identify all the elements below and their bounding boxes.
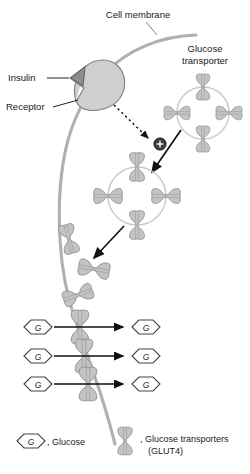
insulin-shape [71, 67, 85, 86]
glucose-letter-outside: G [35, 323, 42, 333]
glucose-transporter-label-line1: Glucose [188, 43, 223, 54]
glucose-transport-diagram: Cell membrane Glucose transporter [0, 0, 250, 474]
vesicle-upper [164, 74, 242, 152]
translocation-arrow [94, 226, 124, 258]
legend: G , Glucose , Glucose transporters (GLUT… [17, 427, 229, 456]
legend-transporter-text-line2: (GLUT4) [148, 446, 183, 456]
glucose-transport-row: G G [24, 310, 160, 344]
glucose-letter-inside: G [143, 323, 150, 333]
plus-node [154, 138, 166, 150]
glucose-letter-inside: G [143, 380, 150, 390]
glucose-letter-outside: G [35, 380, 42, 390]
insulin-label: Insulin [8, 72, 35, 83]
glucose-transporter-label-line2: transporter [182, 55, 228, 66]
glucose-transport-row: G G [24, 367, 160, 401]
glucose-letter-outside: G [35, 352, 42, 362]
legend-glucose-letter: G [28, 437, 35, 447]
receptor-leader [53, 100, 78, 107]
cell-membrane-label: Cell membrane [106, 9, 170, 20]
insulin-receptor-complex [70, 60, 125, 111]
legend-glucose-text: , Glucose [47, 437, 85, 447]
cell-membrane-leader [146, 22, 157, 35]
vesicle-lower [94, 153, 181, 240]
signal-dashed-arrow [114, 105, 148, 138]
figure-canvas: Cell membrane Glucose transporter [0, 0, 250, 474]
activation-arrow [152, 130, 181, 172]
glucose-letter-inside: G [143, 352, 150, 362]
transporter-glyph [77, 258, 111, 279]
legend-transporter-glyph [118, 427, 133, 455]
legend-transporter-text-line1: , Glucose transporters [140, 434, 229, 444]
receptor-label: Receptor [6, 101, 45, 112]
